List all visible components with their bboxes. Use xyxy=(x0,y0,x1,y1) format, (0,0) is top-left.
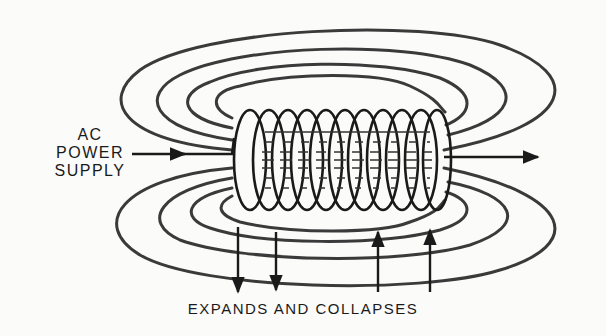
label-line-ac: AC xyxy=(40,126,140,144)
label-line-supply: SUPPLY xyxy=(40,162,140,180)
lower-field-lines xyxy=(117,168,555,286)
label-line-power: POWER xyxy=(40,144,140,162)
ac-power-supply-label: AC POWER SUPPLY xyxy=(40,126,140,180)
electromagnet-diagram: AC POWER SUPPLY EXPANDS AND COLLAPSES xyxy=(0,0,606,336)
expands-collapses-caption: EXPANDS AND COLLAPSES xyxy=(0,300,606,318)
input-lead xyxy=(132,138,234,154)
